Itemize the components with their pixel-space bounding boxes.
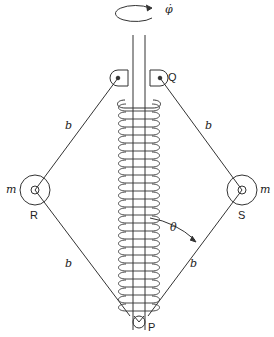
governor-diagram xyxy=(0,0,274,337)
label-theta: θ xyxy=(170,222,177,233)
label-b-upper-left: b xyxy=(65,120,72,131)
label-Q: Q xyxy=(168,72,177,83)
label-S: S xyxy=(238,210,245,221)
label-b-lower-right: b xyxy=(190,258,197,269)
label-b-upper-right: b xyxy=(205,120,212,131)
label-P: P xyxy=(148,322,155,333)
label-m-right: m xyxy=(260,184,270,195)
label-b-lower-left: b xyxy=(65,258,72,269)
label-R: R xyxy=(30,210,38,221)
label-m-left: m xyxy=(6,184,16,195)
phi-dot-label: φ̇ xyxy=(165,4,173,15)
